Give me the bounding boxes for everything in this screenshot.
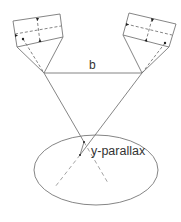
right-fiducial-marks — [126, 18, 166, 44]
y-parallax-label: y-parallax — [91, 144, 146, 158]
left-camera-frame — [13, 14, 63, 73]
stereo-diagram: b y-parallax — [0, 0, 181, 222]
baseline-label: b — [89, 58, 96, 72]
right-camera-frame — [123, 13, 176, 73]
projection-rays — [44, 73, 142, 155]
